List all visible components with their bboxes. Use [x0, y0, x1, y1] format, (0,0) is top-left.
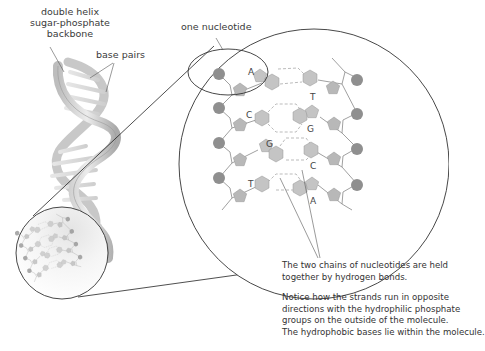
- caption-hb-line-2: together by hydrogen bonds.: [282, 272, 448, 284]
- base-right-1: T: [309, 92, 316, 102]
- magnifier-small: [13, 207, 108, 299]
- caption-orientation: Notice how the strands run in opposite d…: [282, 292, 485, 338]
- label-base-pairs: base pairs: [96, 49, 145, 60]
- caption-or-line-4: The hydrophobic bases lie within the mol…: [282, 327, 485, 339]
- caption-or-line-1: Notice how the strands run in opposite: [282, 292, 485, 304]
- base-right-2: G: [307, 124, 314, 134]
- caption-or-line-2: directions with the hydrophilic phosphat…: [282, 304, 485, 316]
- base-left-2: C: [246, 110, 252, 120]
- label-backbone-line-2: sugar-phosphate: [28, 17, 112, 28]
- base-right-3: C: [310, 161, 316, 171]
- label-backbone: double helix sugar-phosphate backbone: [28, 6, 112, 39]
- label-backbone-line-3: backbone: [28, 28, 112, 39]
- base-left-3: G: [266, 139, 273, 149]
- base-left-1: A: [248, 67, 255, 77]
- label-backbone-line-1: double helix: [28, 6, 112, 17]
- caption-or-line-3: groups on the outside of the molecule.: [282, 315, 485, 327]
- base-left-4: T: [247, 179, 254, 189]
- label-one-nucleotide: one nucleotide: [181, 21, 252, 32]
- caption-hb-line-1: The two chains of nucleotides are held: [282, 260, 448, 272]
- base-right-4: A: [310, 196, 317, 206]
- caption-hydrogen-bonds: The two chains of nucleotides are held t…: [282, 260, 448, 283]
